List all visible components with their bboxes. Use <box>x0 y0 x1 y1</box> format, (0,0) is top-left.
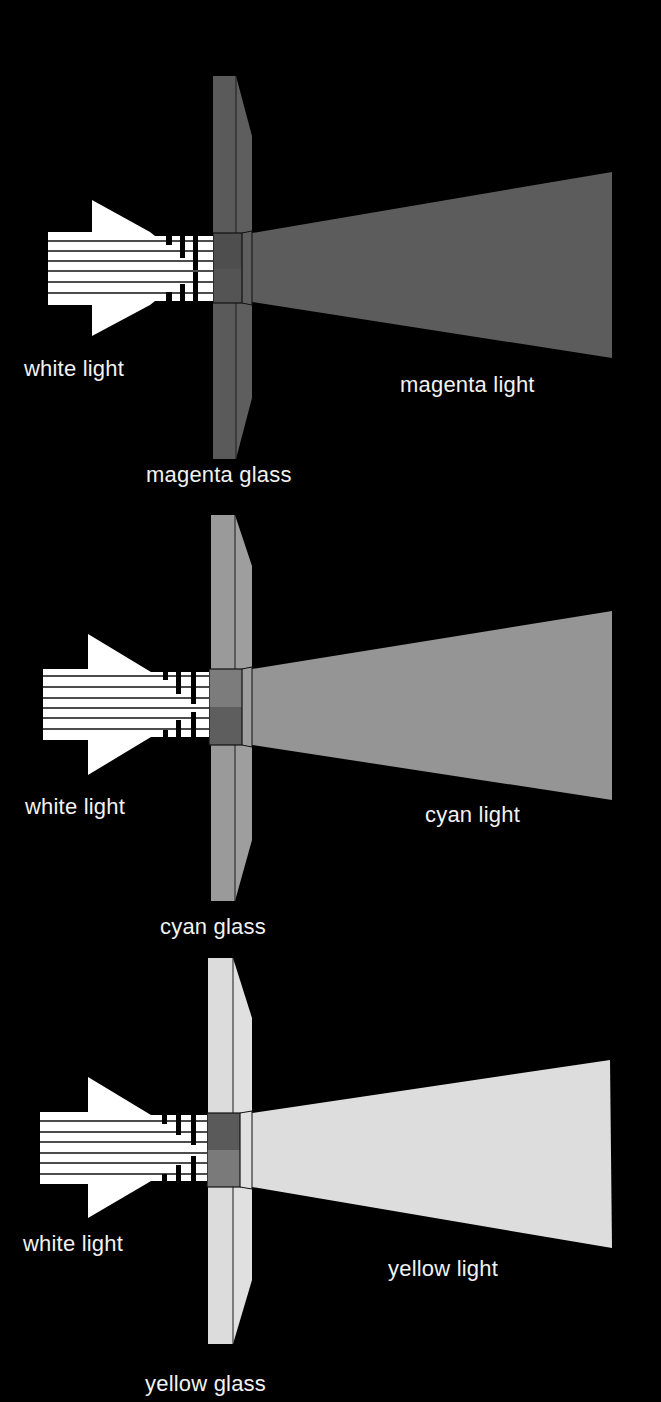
cyan-input-label: white light <box>25 796 125 818</box>
cyan-light-beam <box>252 611 612 800</box>
magenta-filter-diagram <box>0 0 661 500</box>
magenta-glass-label: magenta glass <box>146 464 292 486</box>
white-light-arrow-icon <box>48 200 213 336</box>
white-light-arrow-icon <box>43 634 209 775</box>
yellow-glass-label: yellow glass <box>145 1373 266 1395</box>
panel-cyan: white light cyan glass cyan light <box>0 500 661 950</box>
yellow-output-label: yellow light <box>388 1258 498 1280</box>
yellow-light-beam <box>252 1060 612 1248</box>
magenta-input-label: white light <box>24 358 124 380</box>
yellow-input-label: white light <box>23 1233 123 1255</box>
magenta-light-beam <box>252 172 612 358</box>
yellow-filter-diagram <box>0 950 661 1402</box>
white-light-arrow-icon <box>40 1077 207 1218</box>
cyan-glass-label: cyan glass <box>160 916 266 938</box>
cyan-filter-diagram <box>0 500 661 950</box>
magenta-output-label: magenta light <box>400 374 535 396</box>
panel-magenta: white light magenta glass magenta light <box>0 0 661 500</box>
panel-yellow: white light yellow glass yellow light <box>0 950 661 1402</box>
cyan-output-label: cyan light <box>425 804 520 826</box>
